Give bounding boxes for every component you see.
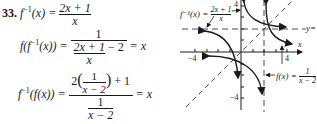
tick-label-neg-y: −4 [230,93,239,102]
f-label: f(x) = 1 x − 2 [276,68,316,85]
f-right-branch [266,4,292,44]
tick-label-neg-x: −4 [188,54,197,63]
finv-label: f⁻¹(x) = 2x + 1 x [180,6,231,23]
finv-left-branch [205,31,238,78]
tick-label-pos-x: 4 [285,54,289,63]
finv-right-branch [244,2,286,27]
graph [0,0,317,124]
tick-label-pos-y: 4 [234,0,238,9]
x-axis-label: x [298,40,302,49]
asymptote-label: y= [306,23,316,33]
